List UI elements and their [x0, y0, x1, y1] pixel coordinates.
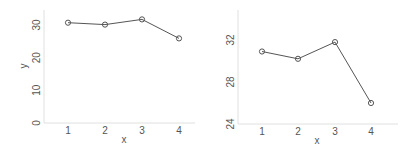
x-axis-label: x: [315, 135, 320, 146]
y-tick: 24: [225, 118, 236, 130]
x-tick: 1: [259, 126, 265, 137]
y-tick: 28: [225, 76, 236, 88]
y-tick-labels: 24 28 32: [225, 34, 236, 130]
x-tick: 3: [332, 126, 338, 137]
y-tick: 30: [31, 19, 42, 31]
y-axis-label: y: [18, 64, 29, 69]
x-tick: 2: [295, 126, 301, 137]
x-axis-label: x: [122, 134, 127, 145]
y-tick: 20: [31, 52, 42, 64]
y-tick: 0: [31, 120, 42, 126]
data-markers: [65, 17, 181, 41]
x-tick: 4: [176, 125, 182, 136]
y-tick: 10: [31, 84, 42, 96]
x-tick: 3: [139, 125, 145, 136]
x-tick: 4: [368, 126, 374, 137]
left-plot: 0 10 20 30 y 1 2 3 4 x: [18, 10, 195, 145]
x-tick: 1: [65, 125, 71, 136]
x-tick: 2: [102, 125, 108, 136]
chart-canvas: 0 10 20 30 y 1 2 3 4 x 24 28 32 1: [0, 0, 410, 148]
y-tick-labels: 0 10 20 30: [31, 19, 42, 126]
data-line: [68, 19, 179, 38]
data-markers: [259, 40, 373, 106]
y-tick: 32: [225, 34, 236, 46]
right-plot: 24 28 32 1 2 3 4 x: [225, 10, 398, 146]
data-line: [262, 42, 371, 103]
